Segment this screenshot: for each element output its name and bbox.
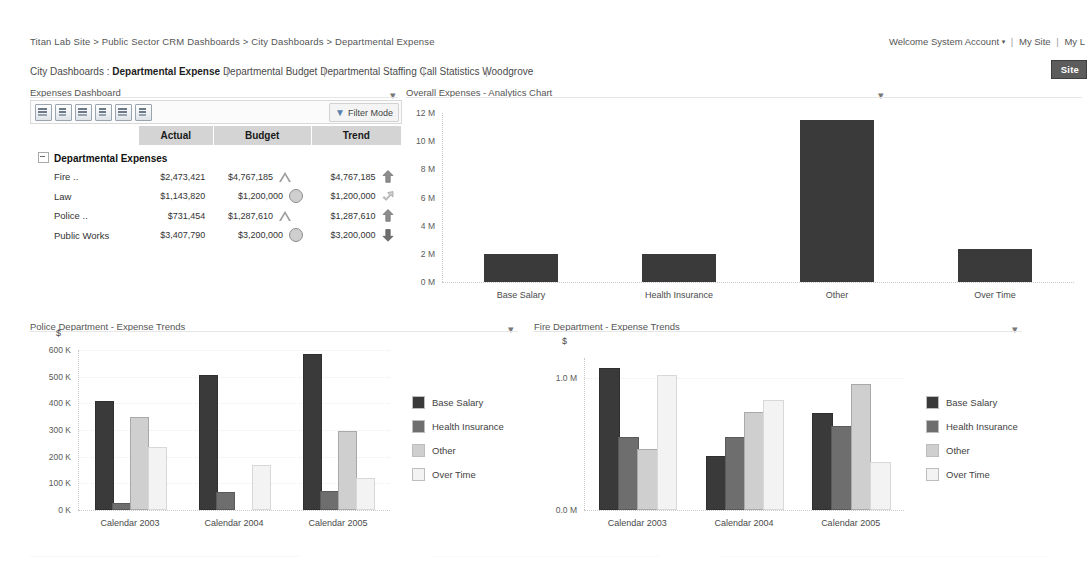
police-expense-trends-chart[interactable]: $0 K100 K200 K300 K400 K500 K600 KCalend… bbox=[30, 336, 520, 536]
cell-actual: $2,473,421 bbox=[139, 167, 213, 186]
axis-tick-label: 4 M bbox=[400, 221, 435, 231]
bar-health-insurance[interactable] bbox=[642, 254, 716, 282]
bar-base-salary-2[interactable] bbox=[303, 354, 322, 510]
legend-item-base-salary[interactable]: Base Salary bbox=[412, 396, 504, 409]
bar-other-2[interactable] bbox=[851, 384, 872, 510]
bar-other[interactable] bbox=[800, 120, 874, 282]
refresh-icon[interactable] bbox=[35, 104, 52, 121]
divider: | bbox=[226, 66, 229, 77]
cell-trend-value: $1,200,000 bbox=[330, 191, 375, 201]
cell-actual: $731,454 bbox=[139, 206, 213, 225]
x-axis bbox=[584, 510, 904, 511]
scorecard-body: Departmental Expenses Fire .. $2,473,421… bbox=[30, 145, 402, 245]
dashboard-page: Titan Lab Site > Public Sector CRM Dashb… bbox=[0, 0, 1087, 567]
column-header-budget[interactable]: Budget bbox=[213, 126, 311, 145]
legend-item-over-time[interactable]: Over Time bbox=[412, 468, 504, 481]
bar-base-salary-2[interactable] bbox=[812, 413, 833, 510]
neutral-circle-icon bbox=[289, 189, 303, 203]
breadcrumb[interactable]: Titan Lab Site > Public Sector CRM Dashb… bbox=[30, 36, 435, 47]
bar-health-insurance-0[interactable] bbox=[112, 503, 131, 510]
bar-health-insurance-0[interactable] bbox=[618, 437, 639, 510]
x-axis bbox=[442, 282, 1074, 283]
cell-budget-value: $1,200,000 bbox=[238, 191, 283, 201]
legend-item-base-salary[interactable]: Base Salary bbox=[926, 396, 1018, 409]
bar-health-insurance-1[interactable] bbox=[216, 492, 235, 510]
bar-health-insurance-1[interactable] bbox=[725, 437, 746, 510]
chart-legend: Base SalaryHealth InsuranceOtherOver Tim… bbox=[412, 396, 504, 492]
gridline bbox=[78, 403, 390, 404]
nav-item-woodgrove[interactable]: Woodgrove bbox=[482, 66, 533, 77]
table-row[interactable]: Public Works $3,407,790 $3,200,000 $3,20… bbox=[30, 225, 402, 245]
site-actions-button[interactable]: Site bbox=[1051, 60, 1087, 79]
nav-item-departmental-budget[interactable]: Departmental Budget bbox=[223, 66, 318, 77]
axis-tick-label: 10 M bbox=[400, 136, 435, 146]
legend-item-health-insurance[interactable]: Health Insurance bbox=[926, 420, 1018, 433]
bar-base-salary-0[interactable] bbox=[95, 401, 114, 510]
bar-other-0[interactable] bbox=[130, 417, 149, 510]
bar-health-insurance-2[interactable] bbox=[831, 426, 852, 510]
bar-over-time-2[interactable] bbox=[356, 478, 375, 510]
nav-item-departmental-staffing[interactable]: Departmental Staffing bbox=[320, 66, 417, 77]
divider bbox=[30, 331, 518, 332]
collapse-icon[interactable] bbox=[38, 152, 49, 163]
chart-icon[interactable] bbox=[115, 104, 132, 121]
bar-base-salary[interactable] bbox=[484, 254, 558, 282]
table-row[interactable]: Law $1,143,820 $1,200,000 $1,200,000 bbox=[30, 186, 402, 206]
bar-base-salary-0[interactable] bbox=[599, 368, 620, 510]
gridline bbox=[78, 350, 390, 351]
bar-health-insurance-2[interactable] bbox=[320, 491, 339, 510]
collapse-all-icon[interactable] bbox=[75, 104, 92, 121]
bar-over-time-1[interactable] bbox=[763, 400, 784, 510]
legend-item-other[interactable]: Other bbox=[926, 444, 1018, 457]
x-axis-label: Calendar 2003 bbox=[78, 518, 182, 528]
overall-expenses-chart[interactable]: 0 M2 M4 M6 M8 M10 M12 MBase SalaryHealth… bbox=[400, 104, 1082, 304]
column-header-actual[interactable]: Actual bbox=[139, 126, 213, 145]
row-label[interactable]: Law bbox=[30, 186, 139, 206]
row-label[interactable]: Police .. bbox=[30, 206, 139, 225]
bar-over-time[interactable] bbox=[958, 249, 1032, 282]
bar-over-time-1[interactable] bbox=[252, 465, 271, 510]
cell-budget: $1,287,610 bbox=[213, 206, 311, 225]
column-header-trend[interactable]: Trend bbox=[311, 126, 401, 145]
group-cell[interactable]: Departmental Expenses bbox=[30, 145, 402, 167]
filter-mode-button[interactable]: ▼ Filter Mode bbox=[329, 103, 399, 122]
bar-over-time-0[interactable] bbox=[148, 447, 167, 510]
bar-over-time-0[interactable] bbox=[657, 375, 678, 510]
bar-other-1[interactable] bbox=[744, 412, 765, 510]
table-row[interactable]: Police .. $731,454 $1,287,610 $1,287,610 bbox=[30, 206, 402, 225]
welcome-label[interactable]: Welcome System Account bbox=[889, 36, 999, 47]
axis-tick-label: 200 K bbox=[30, 452, 71, 462]
my-site-link[interactable]: My Site bbox=[1019, 36, 1051, 47]
row-label[interactable]: Fire .. bbox=[30, 167, 139, 186]
my-links-link[interactable]: My L bbox=[1064, 36, 1085, 47]
legend-item-other[interactable]: Other bbox=[412, 444, 504, 457]
bar-base-salary-1[interactable] bbox=[706, 456, 727, 510]
scorecard-table: Actual Budget Trend Departmental Expense… bbox=[30, 126, 402, 245]
nav-item-departmental-expense[interactable]: Departmental Expense bbox=[112, 66, 220, 77]
legend-label: Other bbox=[946, 445, 970, 456]
bar-other-0[interactable] bbox=[637, 449, 658, 510]
legend-label: Base Salary bbox=[432, 397, 483, 408]
legend-item-over-time[interactable]: Over Time bbox=[926, 468, 1018, 481]
chevron-down-icon[interactable]: ▾ bbox=[1002, 38, 1006, 45]
row-label[interactable]: Public Works bbox=[30, 225, 139, 245]
legend-item-health-insurance[interactable]: Health Insurance bbox=[412, 420, 504, 433]
legend-swatch-1 bbox=[926, 420, 939, 433]
export-icon[interactable] bbox=[95, 104, 112, 121]
filter-icon: ▼ bbox=[335, 108, 345, 118]
y-axis bbox=[584, 358, 585, 510]
report-icon[interactable] bbox=[135, 104, 152, 121]
divider: | bbox=[323, 66, 326, 77]
table-row[interactable]: Fire .. $2,473,421 $4,767,185 $4,767,185 bbox=[30, 167, 402, 186]
axis-tick-label: 0 K bbox=[30, 505, 71, 515]
cell-budget-value: $1,287,610 bbox=[228, 211, 273, 221]
fire-expense-trends-chart[interactable]: $0.0 M1.0 MCalendar 2003Calendar 2004Cal… bbox=[534, 336, 1034, 536]
column-header-kpi[interactable] bbox=[30, 126, 139, 145]
table-row-group[interactable]: Departmental Expenses bbox=[30, 145, 402, 167]
y-axis bbox=[442, 113, 443, 282]
bar-over-time-2[interactable] bbox=[870, 462, 891, 510]
nav-item-call-statistics[interactable]: Call Statistics bbox=[420, 66, 480, 77]
bar-other-2[interactable] bbox=[338, 431, 357, 510]
bar-base-salary-1[interactable] bbox=[199, 375, 218, 510]
expand-all-icon[interactable] bbox=[55, 104, 72, 121]
